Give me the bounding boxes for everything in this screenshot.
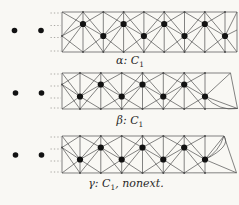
label-text: , nonext. [115,177,163,190]
diagonal-edge [62,136,80,160]
junction-vertex [102,51,104,53]
graph-vertex-dot [139,144,145,150]
continuation-ellipsis-dot [12,28,18,34]
diagonal-edge [122,148,143,174]
junction-vertex [61,84,63,86]
graph-vertex-dot [77,93,83,99]
diagonal-edge [144,12,164,24]
strips-diagram [0,0,239,205]
diagonal-edge [205,97,238,109]
zigzag-edge [101,148,122,160]
diagonal-edge [62,97,80,110]
diagonal-edge [225,12,237,36]
junction-vertex [204,108,206,110]
junction-vertex [162,72,164,74]
strip-beta [13,72,238,110]
junction-vertex [184,51,186,53]
diagonal-edge [80,73,101,97]
junction-vertex [79,135,81,137]
strip-alpha [12,11,237,53]
junction-vertex [121,72,123,74]
junction-vertex [142,172,144,174]
diagonal-edge [143,73,164,97]
diagonal-edge [143,136,164,160]
diagonal-edge [163,148,184,174]
label-alpha: α: C1 [116,55,144,68]
zigzag-edge [83,24,103,36]
graph-vertex-dot [160,156,166,162]
diagonal-edge [163,136,184,160]
diagonal-edge [80,136,101,148]
zigzag-edge [205,24,225,36]
diagonal-edge [163,85,184,110]
zigzag-edge [185,24,205,36]
graph-vertex-dot [160,93,166,99]
zigzag-edge [184,85,205,97]
graph-vertex-dot [202,93,208,99]
diagonal-edge [143,136,164,148]
graph-vertex-dot [100,33,106,39]
zigzag-edge [101,85,122,97]
diagonal-edge [164,12,184,24]
zigzag-edge [143,85,164,97]
diagonal-edge [124,12,144,24]
diagonal-edge [184,136,205,148]
diagonal-edge [101,160,122,174]
zigzag-edge [144,24,164,36]
diagonal-edge [101,97,122,110]
junction-vertex [143,51,145,53]
diagonal-edge [163,160,184,174]
diagonal-edge [184,136,205,160]
junction-vertex [183,108,185,110]
graph-vertex-dot [141,33,147,39]
diagonal-edge [143,160,164,174]
junction-vertex [184,11,186,13]
junction-vertex [102,11,104,13]
junction-vertex [61,147,63,149]
diagonal-edge [101,85,122,110]
junction-vertex [204,135,206,137]
diagonal-edge [143,73,164,85]
junction-vertex [100,172,102,174]
junction-vertex [121,135,123,137]
diagonal-edge [185,12,205,24]
zigzag-edge [124,24,144,36]
label-subscript: 1 [111,183,116,192]
graph-vertex-dot [119,93,125,99]
graph-vertex-dot [119,156,125,162]
diagonal-edge [122,136,143,160]
junction-vertex [224,11,226,13]
diagonal-edge [184,97,205,110]
zigzag-edge [103,24,123,36]
junction-vertex [61,35,63,37]
zigzag-edge [163,148,184,160]
junction-vertex [162,108,164,110]
diagonal-edge [122,73,143,85]
graph-vertex-dot [181,33,187,39]
junction-vertex [183,172,185,174]
graph-vertex-dot [161,21,167,27]
diagonal-edge [163,136,184,148]
junction-vertex [121,172,123,174]
junction-vertex [204,172,206,174]
graph-vertex-dot [139,81,145,87]
zigzag-edge [62,85,80,97]
label-text: γ: C [88,177,110,190]
diagonal-edge [122,136,143,148]
diagonal-edge [62,73,80,85]
zigzag-edge [163,85,184,97]
graph-vertex-dot [222,33,228,39]
diagonal-edge [122,160,143,174]
diagonal-edge [103,12,123,24]
junction-vertex [123,51,125,53]
graph-vertex-dot [77,156,83,162]
graph-vertex-dot [202,156,208,162]
graph-vertex-dot [80,21,86,27]
diagonal-edge [205,73,231,97]
diagonal-edge [122,97,143,110]
diagonal-edge [184,160,205,174]
label-text: β: C [117,114,139,127]
strip-gamma [13,135,237,174]
junction-vertex [82,11,84,13]
junction-vertex [183,135,185,137]
